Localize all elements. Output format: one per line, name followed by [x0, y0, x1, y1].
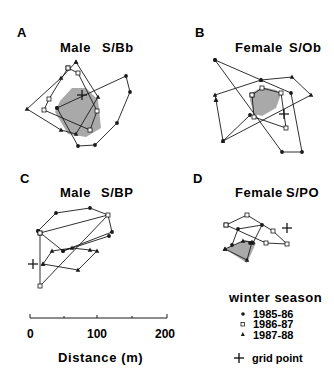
point-1986-87: [285, 242, 289, 246]
point-1987-88: [214, 98, 219, 102]
point-1985-86: [55, 106, 59, 110]
point-1985-86: [128, 90, 132, 94]
point-1985-86: [61, 249, 65, 253]
range-outline-1985-86: [38, 208, 112, 251]
point-1986-87: [42, 108, 46, 112]
point-1986-87: [76, 71, 80, 75]
point-1986-87: [106, 213, 110, 217]
point-1985-86: [76, 144, 80, 148]
legend-item-grid-point: grid point: [252, 352, 303, 364]
point-1985-86: [280, 150, 284, 154]
point-1985-86: [300, 150, 304, 154]
point-1985-86: [107, 234, 111, 238]
range-outline-1986-87: [226, 215, 287, 244]
legend-triangle-icon: [241, 332, 245, 336]
legend-square-icon: [241, 323, 245, 327]
point-1986-87: [260, 86, 264, 90]
point-1986-87: [284, 126, 288, 130]
panel-b: [213, 58, 314, 154]
panel-a: [25, 60, 132, 148]
point-1986-87: [279, 91, 283, 95]
panel-d: [223, 213, 292, 263]
point-1986-87: [95, 109, 99, 113]
legend-circle-icon: [241, 312, 245, 316]
point-1985-86: [230, 243, 234, 247]
legend-cross-icon: [234, 353, 244, 363]
point-1986-87: [38, 231, 42, 235]
point-1985-86: [88, 206, 92, 210]
point-1985-86: [248, 113, 252, 117]
grid-point-cross-icon: [28, 259, 38, 269]
panel-c-sex: Male: [60, 185, 91, 200]
panel-letter-b: B: [195, 25, 204, 40]
home-range-plots: [25, 58, 314, 288]
scale-bar: [30, 314, 167, 318]
scale-title: Distance (m): [58, 350, 143, 365]
point-1985-86: [115, 121, 119, 125]
point-1986-87: [88, 128, 92, 132]
point-1986-87: [47, 97, 51, 101]
panel-a-id: S/Bb: [102, 40, 134, 55]
point-1986-87: [250, 93, 254, 97]
point-1986-87: [224, 223, 228, 227]
panel-c: [28, 206, 114, 288]
point-1985-86: [236, 227, 240, 231]
panel-b-sex: Female: [235, 40, 283, 55]
point-1986-87: [245, 213, 249, 217]
panel-letter-d: D: [193, 171, 202, 186]
point-1986-87: [38, 284, 42, 288]
point-1986-87: [271, 229, 275, 233]
point-1985-86: [221, 139, 225, 143]
panel-d-id: S/PO: [286, 185, 319, 200]
scale-label-100: 100: [87, 327, 107, 341]
figure: A Male S/Bb B Female S/Ob C Male S/BP D …: [0, 0, 334, 381]
scale-label-200: 200: [155, 327, 175, 341]
panel-letter-c: C: [20, 171, 30, 186]
point-1985-86: [289, 91, 293, 95]
panel-c-id: S/BP: [101, 185, 133, 200]
point-1986-87: [252, 115, 256, 119]
point-1985-86: [124, 74, 128, 78]
point-1987-88: [59, 128, 64, 132]
scale-label-0: 0: [27, 327, 34, 341]
grid-point-cross-icon: [282, 223, 292, 233]
point-1985-86: [54, 211, 58, 215]
point-1985-86: [93, 143, 97, 147]
panel-letter-a: A: [17, 25, 27, 40]
range-outline-1985-86: [223, 115, 250, 141]
point-1986-87: [66, 66, 70, 70]
point-1986-87: [264, 241, 268, 245]
point-1987-88: [74, 60, 79, 64]
point-1985-86: [213, 58, 217, 62]
point-1985-86: [110, 230, 114, 234]
legend-title: winter season: [228, 290, 322, 305]
point-1985-86: [260, 223, 264, 227]
point-1987-88: [290, 75, 295, 79]
panel-d-sex: Female: [235, 185, 283, 200]
panel-b-id: S/Ob: [289, 40, 321, 55]
legend-item-1987: 1987-88: [253, 329, 293, 341]
panel-a-sex: Male: [60, 40, 91, 55]
